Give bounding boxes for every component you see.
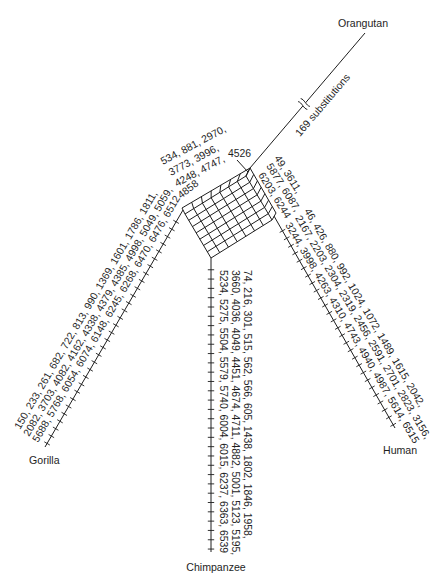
tick-mark [92,361,98,364]
tick-mark [309,281,315,284]
box-right-hatch [265,200,269,207]
tick-mark [139,279,145,282]
tick-mark [44,442,50,445]
tick-mark [100,346,106,349]
box-right-hatch [268,207,272,214]
taxon-label-chimpanzee: Chimpanzee [186,561,246,573]
tick-mark [369,386,375,389]
tick-mark [165,235,171,238]
grid-line [192,189,253,227]
grid-line [207,214,268,252]
tick-mark [79,383,85,386]
tick-mark [74,390,80,393]
tick-mark [318,296,324,299]
human-sites-row: 2167, 2203, 2304, 2319, 2456, 2591, 2701… [293,213,433,440]
tick-mark [386,416,392,419]
tick-mark [339,334,345,337]
tick-mark [53,427,59,430]
tick-mark [70,398,76,401]
tick-mark [57,420,63,423]
taxon-label-orangutan: Orangutan [338,17,388,29]
tick-mark [148,265,154,268]
gorilla-sites-row: 150, 233, 261, 682, 722, 813, 990, 1369,… [12,189,159,431]
box-right-hatch [253,181,257,189]
tick-mark [83,375,89,378]
tick-mark [49,434,55,437]
tick-mark [352,356,358,359]
tick-mark [152,257,158,260]
box-right-hatch [257,187,261,195]
tick-mark [130,294,136,297]
tick-mark [109,331,115,334]
corner-label-leader-line [237,160,248,172]
taxon-label-human: Human [383,444,417,456]
tick-mark [305,274,311,277]
grid-line [204,207,265,245]
tick-mark [143,272,149,275]
taxon-label-gorilla: Gorilla [29,454,60,466]
box-right-hatch [261,194,265,201]
box-top-hatch [192,202,194,208]
tick-mark [301,267,307,270]
tick-mark [348,349,354,352]
tick-mark [292,252,298,255]
tick-mark [335,326,341,329]
human-sites-row: 3244, 3998, 4263, 4310, 4743, 4940, 4987… [283,220,421,445]
tick-mark [288,244,294,247]
chimpanzee-sites-row: 5234, 5275, 5504, 5579, 5740, 6004, 6015… [218,270,229,553]
box-top-hatch [201,197,202,204]
tick-mark [327,311,333,314]
box-right-hatch [250,174,254,182]
tick-mark [314,289,320,292]
tick-mark [344,341,350,344]
tick-mark [135,287,141,290]
tick-mark [382,408,388,411]
tick-mark [96,353,102,356]
tick-mark [284,237,290,240]
tick-mark [322,304,328,307]
grid-line [211,220,272,258]
chimpanzee-sites-row: 74, 216, 301, 515, 562, 566, 605, 1438, … [242,270,253,539]
tick-mark [390,423,396,426]
tick-mark [126,301,132,304]
tick-mark [87,368,93,371]
tick-mark [280,229,286,232]
tick-mark [378,401,384,404]
tick-mark [173,220,179,223]
chimpanzee-sites-row: 3660, 4036, 4049, 4451, 4674, 4711, 4882… [230,270,241,555]
tick-mark [297,259,303,262]
tick-mark [117,316,123,319]
gorilla-sites-row: 2082, 3703, 4082, 4162, 4338, 4379, 4385… [21,185,174,438]
gorilla-sites-row: 5688, 5768, 6054, 6074, 6148, 6245, 6268… [30,194,182,444]
gorilla-branch-line [45,210,183,447]
tick-mark [105,338,111,341]
box-corner-site-label: 4526 [228,148,251,159]
tick-mark [361,371,367,374]
phylogenetic-network-diagram: Orangutan Gorilla Human Chimpanzee 169 s… [0,0,445,585]
tick-mark [365,378,371,381]
grid-line [196,195,257,233]
tick-mark [331,319,337,322]
tick-mark [113,324,119,327]
tick-mark [169,228,175,231]
tick-mark [156,250,162,253]
tick-mark [160,242,166,245]
tick-mark [122,309,128,312]
tick-mark [373,393,379,396]
tick-mark [356,364,362,367]
orangutan-branch-line [250,33,365,168]
human-sites-row: 46, 426, 880, 992, 1024, 1072, 1489, 161… [302,206,427,408]
tick-mark [66,405,72,408]
tick-mark [62,412,68,415]
grid-line [200,201,261,239]
